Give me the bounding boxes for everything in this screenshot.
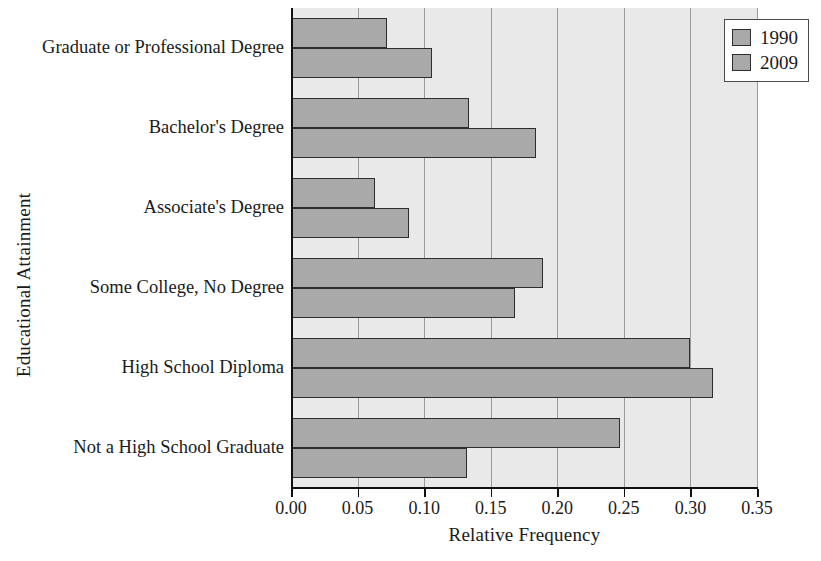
x-axis-tick-label: 0.00: [261, 498, 321, 519]
x-axis-tick-mark: [358, 489, 360, 497]
bar-1990: [291, 178, 375, 208]
plot-area: [291, 8, 757, 488]
x-axis-tick-mark: [491, 489, 493, 497]
bar-1990: [291, 338, 690, 368]
x-axis-title: Relative Frequency: [291, 524, 758, 546]
legend-swatch-icon: [732, 29, 751, 46]
y-axis-category-label: Graduate or Professional Degree: [22, 38, 284, 57]
x-axis-tick-mark: [624, 489, 626, 497]
x-axis-tick-label: 0.05: [328, 498, 388, 519]
x-axis-tick-label: 0.30: [660, 498, 720, 519]
y-axis-category-labels: Graduate or Professional DegreeBachelor'…: [22, 8, 284, 488]
bars-layer: [291, 8, 757, 488]
bar-chart-figure: Educational Attainment Graduate or Profe…: [0, 0, 821, 561]
y-axis-category-label: Some College, No Degree: [22, 278, 284, 297]
legend-entry-1990: 1990: [732, 25, 798, 50]
x-axis-tick-label: 0.25: [594, 498, 654, 519]
y-axis-line: [291, 8, 293, 489]
x-axis-tick-label: 0.35: [727, 498, 787, 519]
bar-2009: [291, 208, 409, 238]
bar-2009: [291, 128, 536, 158]
y-axis-category-label: Bachelor's Degree: [22, 118, 284, 137]
bar-2009: [291, 448, 467, 478]
bar-1990: [291, 258, 543, 288]
legend: 1990 2009: [724, 19, 809, 82]
x-axis-tick-label: 0.20: [527, 498, 587, 519]
x-axis-tick-mark: [557, 489, 559, 497]
x-axis-tick-mark: [291, 489, 293, 497]
y-axis-category-label: Associate's Degree: [22, 198, 284, 217]
bar-2009: [291, 288, 515, 318]
y-axis-category-label: Not a High School Graduate: [22, 438, 284, 457]
bar-1990: [291, 18, 387, 48]
x-axis-tick-label: 0.10: [394, 498, 454, 519]
legend-swatch-icon: [732, 54, 751, 71]
bar-1990: [291, 418, 620, 448]
bar-2009: [291, 48, 432, 78]
legend-label: 2009: [760, 53, 798, 72]
y-axis-category-label: High School Diploma: [22, 358, 284, 377]
x-axis-tick-label: 0.15: [461, 498, 521, 519]
x-axis-tick-mark: [757, 489, 759, 497]
legend-label: 1990: [760, 28, 798, 47]
bar-1990: [291, 98, 469, 128]
x-axis-tick-mark: [424, 489, 426, 497]
legend-entry-2009: 2009: [732, 50, 798, 75]
x-axis-line: [291, 487, 758, 489]
bar-2009: [291, 368, 713, 398]
x-axis-tick-mark: [690, 489, 692, 497]
